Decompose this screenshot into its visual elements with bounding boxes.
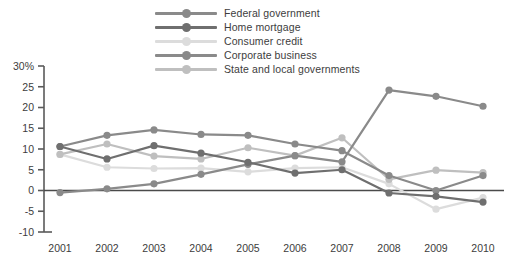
data-point-marker [244,168,251,175]
y-axis-label: -5 [25,205,34,217]
data-point-marker [291,152,298,159]
y-axis-label: 20 [22,101,34,113]
data-point-marker [150,142,157,149]
data-point-marker [150,126,157,133]
data-point-marker [56,189,63,196]
data-point-marker [197,171,204,178]
x-axis-label: 2007 [330,242,354,254]
series-group [56,86,486,196]
data-point-marker [432,167,439,174]
x-axis-label: 2004 [189,242,213,254]
y-axis-label: 10 [22,143,34,155]
data-point-marker [150,180,157,187]
x-axis-label: 2003 [142,242,166,254]
y-axis-label: 0 [28,184,34,196]
data-point-marker [56,143,63,150]
x-axis-label: 2001 [48,242,72,254]
data-point-marker [244,159,251,166]
x-axis-label: 2010 [471,242,495,254]
plot-area: -10-5051015202530%2001200220032004200520… [0,0,510,260]
y-axis-label: 30% [13,60,34,72]
x-axis-label: 2002 [95,242,119,254]
y-axis-label: 25 [22,81,34,93]
data-point-marker [244,144,251,151]
series-group [56,134,486,183]
data-point-marker [150,152,157,159]
y-axis-label: 5 [28,164,34,176]
series-line [60,154,483,209]
x-axis-label: 2005 [236,242,260,254]
data-point-marker [103,132,110,139]
data-point-marker [432,193,439,200]
data-point-marker [103,185,110,192]
chart-canvas: -10-5051015202530%2001200220032004200520… [0,0,510,260]
data-point-marker [385,189,392,196]
data-point-marker [103,155,110,162]
data-point-marker [338,166,345,173]
x-axis-label: 2006 [283,242,307,254]
y-axis-label: -10 [19,226,34,238]
data-point-marker [479,103,486,110]
data-point-marker [432,93,439,100]
data-point-marker [291,169,298,176]
data-point-marker [197,131,204,138]
data-point-marker [479,199,486,206]
x-axis-label: 2008 [377,242,401,254]
chart-figure: Federal governmentHome mortgageConsumer … [0,0,510,260]
y-axis-label: 15 [22,122,34,134]
data-point-marker [197,164,204,171]
data-point-marker [103,164,110,171]
data-point-marker [385,86,392,93]
data-point-marker [103,140,110,147]
data-point-marker [338,134,345,141]
series-line [60,138,483,180]
data-point-marker [291,140,298,147]
data-point-marker [56,151,63,158]
data-point-marker [197,150,204,157]
data-point-marker [479,172,486,179]
data-point-marker [338,147,345,154]
x-axis-label: 2009 [424,242,448,254]
data-point-marker [150,165,157,172]
data-point-marker [385,172,392,179]
data-point-marker [244,132,251,139]
data-point-marker [338,158,345,165]
series-line [60,90,483,193]
data-point-marker [432,206,439,213]
